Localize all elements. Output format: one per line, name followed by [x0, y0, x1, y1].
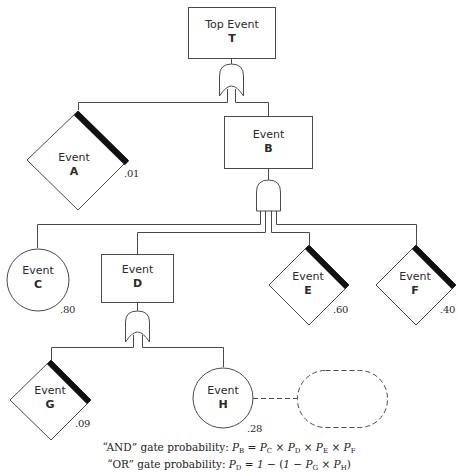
and-formula-term: P — [316, 441, 323, 453]
and-formula-term-sub: F — [351, 447, 356, 455]
event-d-box — [102, 255, 174, 303]
or-formula-close: ) — [347, 458, 351, 470]
event-h-probability: .28 — [247, 423, 262, 434]
or-formula-minus: − — [290, 458, 305, 470]
or-formula-one: 1 — [257, 458, 264, 470]
event-h-circle — [193, 368, 253, 428]
connector-line — [79, 89, 228, 110]
event-c-circle — [7, 249, 69, 311]
event-a-probability: .01 — [124, 168, 139, 179]
event-a-diamond — [27, 111, 128, 210]
and-formula-equals: = — [244, 441, 259, 453]
event-c-probability: .80 — [60, 304, 75, 315]
and-formula-times: × — [328, 441, 343, 453]
and-formula-term: P — [344, 441, 351, 453]
top-event-box — [189, 8, 276, 59]
dashed-placeholder-event — [298, 371, 388, 428]
or-formula-term: P — [334, 458, 341, 470]
fault-tree-diagram — [0, 0, 458, 476]
and-formula-term: P — [260, 441, 267, 453]
and-gate-icon — [257, 180, 281, 211]
or-gate-formula: “OR” gate probability: PD = 1 − (1 − PG … — [0, 458, 458, 472]
event-g-probability: .09 — [75, 418, 90, 429]
event-f-probability: .40 — [440, 304, 455, 315]
and-formula-prefix: “AND” gate probability: — [103, 441, 233, 453]
or-formula-minus: − ( — [264, 458, 284, 470]
connector-line — [52, 335, 134, 360]
connector-line — [138, 211, 266, 254]
connector-line — [272, 211, 310, 245]
or-formula-equals: = — [241, 458, 256, 470]
event-e-probability: .60 — [333, 304, 348, 315]
connector-line — [38, 211, 261, 248]
and-gate-formula: “AND” gate probability: PB = PC × PD × P… — [0, 441, 458, 455]
and-formula-times: × — [272, 441, 287, 453]
event-b-box — [225, 117, 313, 169]
or-formula-one: 1 — [283, 458, 290, 470]
and-formula-times: × — [300, 441, 315, 453]
connector-line — [143, 335, 224, 367]
or-formula-prefix: “OR” gate probability: — [107, 458, 229, 470]
or-formula-times: × — [318, 458, 333, 470]
connector-line — [277, 211, 417, 245]
or-gate-icon — [126, 311, 150, 342]
or-gate-icon — [220, 64, 244, 96]
or-formula-lhs: P — [229, 458, 236, 470]
connector-line — [236, 89, 269, 116]
and-formula-term: P — [288, 441, 295, 453]
